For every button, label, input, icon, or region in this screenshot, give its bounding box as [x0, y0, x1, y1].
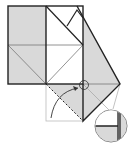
fold-diagram-svg — [0, 0, 137, 153]
origami-diagram — [0, 0, 137, 153]
